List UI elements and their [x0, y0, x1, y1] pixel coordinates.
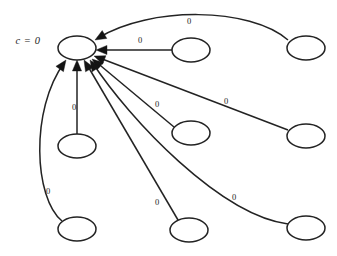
edge-weight-label: 0	[232, 192, 236, 202]
edge-weight-label: 0	[187, 16, 191, 26]
annotations-layer: c = 0	[15, 35, 40, 46]
edge-weight-label: 0	[155, 197, 159, 207]
graph-node[interactable]	[287, 124, 325, 148]
graph-node[interactable]	[172, 38, 210, 62]
graph-node[interactable]	[170, 218, 208, 242]
graph-node[interactable]	[58, 134, 96, 158]
graph-node[interactable]	[287, 36, 325, 60]
graph-node[interactable]	[58, 217, 96, 241]
center-node-annotation: c = 0	[15, 35, 40, 46]
graph-node[interactable]	[287, 216, 325, 240]
graph-edge	[97, 57, 288, 130]
edge-arrowhead	[95, 31, 107, 40]
graph-svg: 00000000 c = 0	[0, 0, 337, 256]
graph-canvas: 00000000 c = 0	[0, 0, 337, 256]
edge-weight-label: 0	[46, 186, 50, 196]
edge-weight-label: 0	[138, 35, 142, 45]
graph-node[interactable]	[58, 36, 96, 60]
edge-arrowhead	[72, 60, 81, 71]
edge-weight-label: 0	[155, 99, 159, 109]
edge-weight-label: 0	[224, 96, 228, 106]
graph-edge	[86, 63, 178, 220]
edge-arrowhead	[56, 60, 66, 72]
graph-edge	[98, 15, 288, 40]
graph-node[interactable]	[172, 121, 210, 145]
edge-arrowhead	[96, 45, 107, 54]
edge-weight-label: 0	[72, 102, 76, 112]
